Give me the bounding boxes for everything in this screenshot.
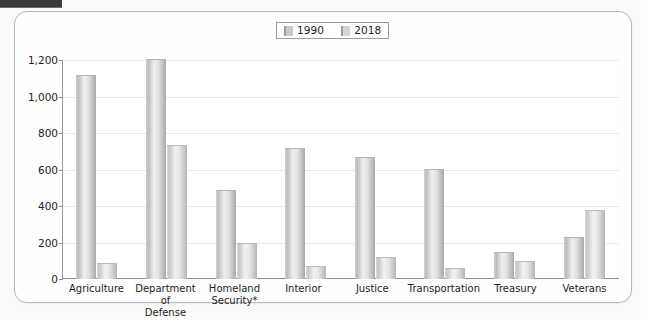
y-tick-label: 600 (38, 164, 58, 176)
cropped-header-band (0, 0, 62, 8)
y-tick-label: 1,200 (28, 54, 58, 66)
bar-2018[interactable] (515, 261, 535, 279)
bar-2018[interactable] (97, 263, 117, 279)
bar-1990[interactable] (564, 237, 584, 279)
legend-label: 1990 (297, 25, 324, 36)
x-axis-labels: AgricultureDepartment ofDefenseHomelandS… (62, 283, 619, 319)
x-axis-label-line: Justice (339, 283, 406, 295)
gridline (63, 279, 619, 280)
bar-2018[interactable] (376, 257, 396, 279)
x-axis-label-line: Transportation (408, 283, 480, 295)
bar-group (549, 60, 619, 279)
bar-1990[interactable] (494, 252, 514, 279)
x-axis-label: Agriculture (62, 283, 131, 319)
legend-label: 2018 (354, 25, 381, 36)
chart-legend: 19902018 (276, 22, 389, 39)
bar-group (480, 60, 550, 279)
y-tick-label: 200 (38, 237, 58, 249)
y-tick-label: 0 (51, 273, 58, 285)
legend-entry-2018[interactable]: 2018 (341, 25, 381, 36)
legend-entry-1990[interactable]: 1990 (284, 25, 324, 36)
x-axis-label-line: Defense (132, 307, 199, 319)
x-axis-label: Transportation (407, 283, 481, 319)
legend-swatch-icon (341, 26, 350, 36)
bar-group (201, 60, 271, 279)
bar-2018[interactable] (237, 243, 257, 279)
bar-group (410, 60, 480, 279)
bar-2018[interactable] (445, 268, 465, 279)
bar-1990[interactable] (285, 148, 305, 279)
x-axis-label-line: Security* (201, 295, 268, 307)
x-axis-label-line: Veterans (551, 283, 618, 295)
bar-2018[interactable] (167, 145, 187, 279)
bar-group (132, 60, 202, 279)
bar-1990[interactable] (216, 190, 236, 279)
legend-swatch-icon (284, 26, 293, 36)
x-axis-label-line: Homeland (201, 283, 268, 295)
x-axis-label: Treasury (481, 283, 550, 319)
bar-series-container (62, 60, 619, 279)
bar-2018[interactable] (306, 266, 326, 279)
x-axis-label-line: Agriculture (63, 283, 130, 295)
bar-1990[interactable] (424, 169, 444, 280)
y-tick-label: 800 (38, 127, 58, 139)
x-axis-label-line: Treasury (482, 283, 549, 295)
bar-1990[interactable] (76, 75, 96, 279)
bar-2018[interactable] (585, 210, 605, 279)
y-tick-label: 1,000 (28, 91, 58, 103)
plot-wrapper: 02004006008001,0001,200 (62, 60, 619, 279)
x-axis-label: Department ofDefense (131, 283, 200, 319)
bar-group (62, 60, 132, 279)
bar-1990[interactable] (146, 59, 166, 279)
x-axis-label: Veterans (550, 283, 619, 319)
y-tick-mark (59, 279, 63, 280)
bar-1990[interactable] (355, 157, 375, 279)
bar-group (271, 60, 341, 279)
bar-group (341, 60, 411, 279)
x-axis-label-line: Department of (132, 283, 199, 307)
y-tick-label: 400 (38, 200, 58, 212)
x-axis-label: HomelandSecurity* (200, 283, 269, 319)
x-axis-label-line: Interior (270, 283, 337, 295)
x-axis-label: Interior (269, 283, 338, 319)
x-axis-label: Justice (338, 283, 407, 319)
